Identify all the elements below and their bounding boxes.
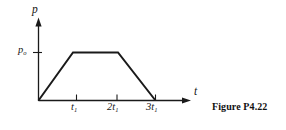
x-tick-label-3t1-subscript: 1: [154, 106, 157, 113]
figure-container: p t po t1 2t1 3t1 Figure P4.22: [0, 0, 286, 130]
x-tick-label-2t1: 2t1: [107, 102, 118, 113]
x-tick-label-t1: t1: [71, 102, 77, 113]
y-axis-label: p: [32, 4, 38, 16]
trapezoidal-pulse-curve: [39, 53, 156, 101]
y-tick-label-po-subscript: o: [23, 49, 26, 56]
y-axis-arrowhead: [35, 18, 41, 27]
x-tick-label-2t1-subscript: 1: [115, 106, 118, 113]
x-axis-arrowhead: [182, 97, 191, 103]
y-tick-label-po: po: [18, 45, 27, 56]
x-tick-label-3t1: 3t1: [146, 102, 157, 113]
x-tick-label-t1-subscript: 1: [74, 106, 77, 113]
figure-caption: Figure P4.22: [212, 101, 267, 112]
x-axis-label: t: [194, 86, 197, 98]
